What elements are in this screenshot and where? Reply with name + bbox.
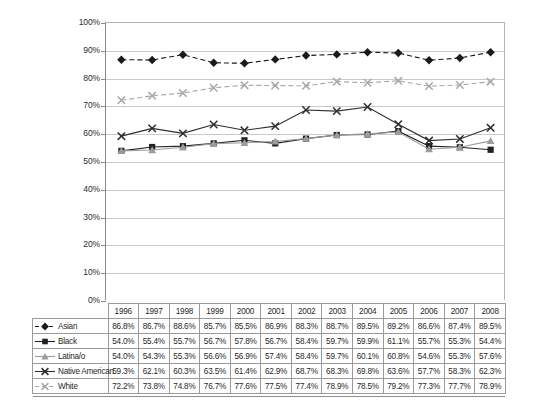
legend-label: Latina/o [58,352,85,361]
legend-marker-filled-square [34,336,56,347]
table-cell: 77.7% [444,379,475,394]
table-cell: 56.7% [261,334,292,349]
table-cell: 88.3% [291,319,322,334]
table-cell: 58.3% [444,364,475,379]
table-cell: 54.0% [108,349,139,364]
y-axis-labels: 100%90%80%70%60%50%40%30%20%10%0% [62,0,100,300]
plot-area [105,22,505,300]
table-cell: 86.8% [108,319,139,334]
y-axis-tick-label: 30% [66,213,100,222]
table-column-header: 2004 [353,304,384,319]
chart-figure: 100%90%80%70%60%50%40%30%20%10%0% 199619… [0,0,547,407]
bottom-rule [33,396,505,397]
legend-marker-cross-x [34,381,56,392]
table-column-header: 2006 [414,304,445,319]
table-cell: 77.4% [291,379,322,394]
table-column-header: 2005 [383,304,414,319]
table-cell: 78.5% [353,379,384,394]
table-cell: 58.4% [291,334,322,349]
table-cell: 88.6% [169,319,200,334]
table-cell: 57.6% [475,349,506,364]
table-corner-cell [33,304,109,319]
table-cell: 88.7% [322,319,353,334]
table-column-header: 2002 [291,304,322,319]
table-cell: 89.2% [383,319,414,334]
table-cell: 58.4% [291,349,322,364]
table-cell: 60.8% [383,349,414,364]
legend-marker-filled-diamond [34,321,56,332]
table-cell: 56.7% [200,334,231,349]
y-axis-tick-label: 70% [66,101,100,110]
line-chart-plot: 100%90%80%70%60%50%40%30%20%10%0% [0,0,547,300]
y-axis-tick-label: 100% [66,18,100,27]
table-cell: 68.7% [291,364,322,379]
table-cell: 55.3% [169,349,200,364]
table-cell: 62.1% [139,364,170,379]
table-cell: 59.7% [322,334,353,349]
table-cell: 77.6% [230,379,261,394]
y-axis-tick-label: 10% [66,268,100,277]
table-cell: 68.3% [322,364,353,379]
table-column-header: 2001 [261,304,292,319]
table-cell: 89.5% [475,319,506,334]
legend-cell-black: Black [33,334,109,349]
data-table-wrap: 1996199719981999200020012002200320042005… [32,303,506,394]
table-cell: 61.1% [383,334,414,349]
table-column-header: 2007 [444,304,475,319]
table-cell: 60.1% [353,349,384,364]
table-cell: 63.6% [383,364,414,379]
table-column-header: 1997 [139,304,170,319]
table-column-header: 1998 [169,304,200,319]
table-cell: 87.4% [444,319,475,334]
table-cell: 55.7% [414,334,445,349]
table-cell: 59.7% [322,349,353,364]
table-cell: 54.0% [108,334,139,349]
y-axis-tick-label: 80% [66,74,100,83]
table-cell: 74.8% [169,379,200,394]
legend-label: Black [58,337,77,346]
table-cell: 55.3% [444,334,475,349]
y-axis-tick-label: 60% [66,129,100,138]
data-table: 1996199719981999200020012002200320042005… [32,303,506,394]
table-cell: 86.6% [414,319,445,334]
table-cell: 56.9% [230,349,261,364]
table-row: Asian86.8%86.7%88.6%85.7%85.5%86.9%88.3%… [33,319,506,334]
table-cell: 85.7% [200,319,231,334]
table-row: White72.2%73.8%74.8%76.7%77.6%77.5%77.4%… [33,379,506,394]
legend-cell-white: White [33,379,109,394]
table-cell: 77.3% [414,379,445,394]
table-cell: 69.8% [353,364,384,379]
table-cell: 86.7% [139,319,170,334]
y-axis-tick [101,301,106,302]
table-column-header: 2000 [230,304,261,319]
table-cell: 54.6% [414,349,445,364]
table-header-row: 1996199719981999200020012002200320042005… [33,304,506,319]
series-asian [117,48,495,68]
table-cell: 73.8% [139,379,170,394]
legend-cell-native-american: Native American [33,364,109,379]
table-cell: 61.4% [230,364,261,379]
table-row: Latina/o54.0%54.3%55.3%56.6%56.9%57.4%58… [33,349,506,364]
table-cell: 78.9% [475,379,506,394]
legend-label: White [58,382,78,391]
table-cell: 54.4% [475,334,506,349]
table-cell: 57.7% [414,364,445,379]
y-axis-tick-label: 50% [66,157,100,166]
table-cell: 78.9% [322,379,353,394]
y-axis-tick-label: 40% [66,185,100,194]
table-cell: 60.3% [169,364,200,379]
table-column-header: 2003 [322,304,353,319]
table-cell: 55.7% [169,334,200,349]
legend-label: Native American [58,367,114,376]
legend-cell-latina-o: Latina/o [33,349,109,364]
table-column-header: 1996 [108,304,139,319]
table-cell: 59.9% [353,334,384,349]
table-cell: 77.5% [261,379,292,394]
table-cell: 79.2% [383,379,414,394]
table-cell: 54.3% [139,349,170,364]
series-white [118,77,495,104]
table-cell: 86.9% [261,319,292,334]
table-cell: 55.3% [444,349,475,364]
table-cell: 57.8% [230,334,261,349]
table-row: Native American59.3%62.1%60.3%63.5%61.4%… [33,364,506,379]
